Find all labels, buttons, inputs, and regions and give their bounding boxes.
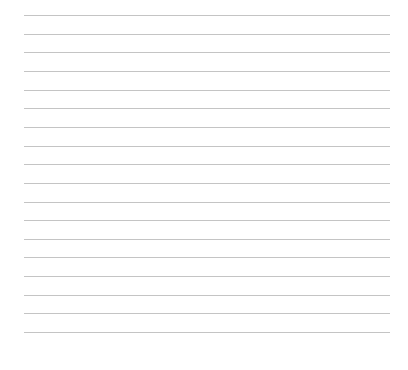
ruled-line [24, 90, 390, 91]
ruled-line [24, 164, 390, 165]
ruled-line [24, 146, 390, 147]
ruled-line [24, 295, 390, 296]
ruled-line [24, 220, 390, 221]
ruled-line [24, 202, 390, 203]
ruled-line [24, 332, 390, 333]
ruled-line [24, 52, 390, 53]
ruled-line [24, 313, 390, 314]
ruled-line [24, 183, 390, 184]
ruled-line [24, 276, 390, 277]
ruled-line [24, 15, 390, 16]
ruled-line [24, 257, 390, 258]
ruled-line [24, 34, 390, 35]
ruled-line [24, 108, 390, 109]
ruled-line [24, 71, 390, 72]
ruled-line [24, 127, 390, 128]
ruled-page [0, 0, 408, 370]
ruled-line [24, 239, 390, 240]
